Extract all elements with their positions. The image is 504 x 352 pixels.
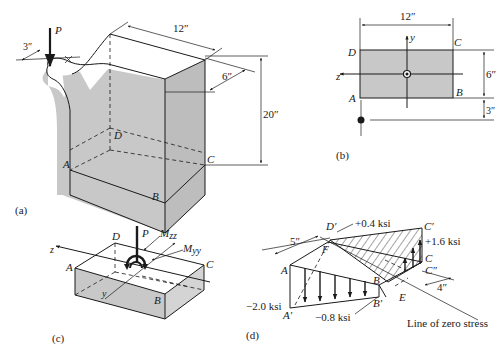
panel-a: P 3″ 12″ 6″ 20″ D A B C (a) [15, 22, 279, 233]
point-D-a: D [113, 129, 122, 141]
point-A-c: A [65, 261, 73, 273]
dim-offset-b: 3″ [486, 105, 495, 116]
point-A-prime-d: A′ [282, 309, 293, 321]
panel-c: z y P Mzz Myy D A B C (c) [49, 226, 214, 345]
dim-left-d: 5″ [290, 235, 300, 247]
load-label-a: P [54, 24, 62, 36]
load-point-marker [358, 117, 365, 124]
point-C-c: C [206, 258, 214, 270]
point-B-d: B [373, 274, 380, 286]
stress-D-prime: +0.4 ksi [355, 217, 391, 229]
stress-B-prime: −0.8 ksi [315, 311, 351, 323]
point-A-a: A [62, 158, 70, 170]
point-C-prime-d: C′ [424, 220, 434, 232]
compression-arrows [305, 268, 365, 302]
stress-A-prime: −2.0 ksi [246, 300, 282, 312]
dim-depth-b: 6″ [486, 68, 496, 80]
axis-y-label-b: y [409, 31, 415, 43]
stress-C-prime: +1.6 ksi [425, 235, 461, 247]
axis-z-label-c: z [49, 244, 54, 255]
point-D-b: D [347, 46, 356, 58]
caption-b: (b) [336, 149, 349, 162]
dim-depth-a: 6″ [222, 70, 232, 82]
point-E-d: E [398, 291, 406, 303]
axis-y-label-c: y [101, 288, 107, 299]
point-B-c: B [154, 294, 161, 306]
point-C-d: C [425, 252, 433, 264]
dim-width-b: 12″ [400, 10, 416, 22]
point-A-b: A [348, 92, 356, 104]
point-B-a: B [152, 190, 159, 202]
caption-d: (d) [246, 329, 259, 342]
moment-y-label: Myy [182, 242, 202, 256]
point-B-prime-d: B′ [373, 297, 383, 309]
moment-z-label: Mzz [159, 227, 177, 241]
dim-height-a: 20″ [263, 108, 279, 120]
point-F-d: F [321, 243, 329, 255]
point-B-b: B [456, 86, 463, 98]
panel-b: 12″ y z 6″ 3″ D C A B (b) [335, 10, 496, 162]
point-D-c: D [111, 230, 120, 242]
point-A-d: A [280, 264, 288, 276]
point-C-b: C [454, 36, 462, 48]
panel-d: 5″ 4″ +0.4 ksi +1.6 ksi −2.0 ksi −0.8 ks… [246, 217, 488, 342]
dim-eccentricity: 3″ [23, 41, 32, 52]
caption-a: (a) [15, 204, 28, 217]
block-right-face [165, 60, 205, 233]
dim-width-a: 12″ [173, 22, 189, 34]
axis-z-label-b: z [335, 70, 341, 82]
zero-line-label: Line of zero stress [407, 317, 488, 329]
caption-c: (c) [52, 332, 65, 345]
point-C-dprime-d: C″ [425, 264, 437, 276]
load-label-c: P [141, 227, 149, 239]
point-D-prime-d: D′ [325, 220, 337, 232]
dim-right-d: 4″ [437, 281, 447, 293]
point-C-a: C [207, 153, 215, 165]
figure-canvas: P 3″ 12″ 6″ 20″ D A B C (a) 12 [0, 0, 504, 352]
